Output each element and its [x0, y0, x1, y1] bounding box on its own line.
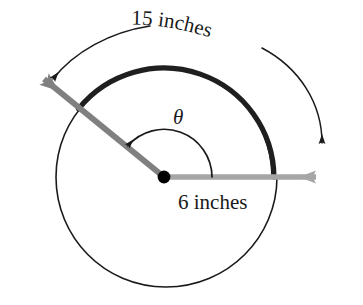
radius-label: 6 inches [178, 190, 247, 214]
terminal-side-ray [44, 79, 164, 177]
arc-length-dimension-right [262, 48, 322, 143]
angle-theta-label: θ [173, 105, 183, 129]
arc-length-label: 15 inches [131, 6, 215, 43]
diagram-canvas: 15 inches 6 inches θ [0, 0, 363, 305]
center-vertex-dot [158, 171, 171, 184]
central-angle-arc [128, 129, 212, 177]
geometry-figure: 15 inches 6 inches θ [0, 0, 363, 305]
